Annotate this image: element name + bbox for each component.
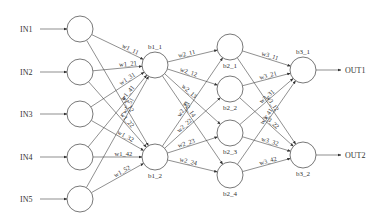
neuron-label: b3_1 xyxy=(296,48,311,56)
edge-l1 xyxy=(89,82,147,148)
input-label: IN4 xyxy=(20,153,32,162)
weight-label: w1_11 xyxy=(121,42,140,56)
edge-l1 xyxy=(88,75,147,147)
neuron-node xyxy=(142,52,168,78)
neuron-node xyxy=(217,162,243,188)
input-label: IN5 xyxy=(20,195,32,204)
neuron-node xyxy=(217,120,243,146)
neuron-label: b2_3 xyxy=(223,148,238,156)
neuron-label: b3_2 xyxy=(296,170,311,178)
input-node xyxy=(67,101,93,127)
neuron-node xyxy=(217,34,243,60)
neural-network-diagram: w1_11w1_12w1_21w1_22w1_31w1_32w1_41w1_42… xyxy=(0,0,384,218)
weight-label: w1_32 xyxy=(116,128,135,143)
neuron-label: b1_2 xyxy=(148,172,163,180)
weight-label: w1_52 xyxy=(112,164,131,179)
neuron-node xyxy=(142,144,168,170)
output-label: OUT2 xyxy=(345,151,365,160)
weight-label: w1_31 xyxy=(118,71,137,87)
weight-labels: w1_11w1_12w1_21w1_22w1_31w1_32w1_41w1_42… xyxy=(112,42,280,178)
output-label: OUT1 xyxy=(345,66,365,75)
input-label: IN2 xyxy=(20,68,32,77)
input-node xyxy=(67,59,93,85)
neuron-label: b2_2 xyxy=(223,104,238,112)
neuron-node xyxy=(290,142,316,168)
input-node xyxy=(67,144,93,170)
edge-l1 xyxy=(93,66,142,71)
weight-label: w1_42 xyxy=(115,150,133,157)
input-label: IN1 xyxy=(20,25,32,34)
neuron-label: b1_1 xyxy=(148,43,163,51)
edge-l1 xyxy=(91,72,144,107)
weight-label: w1_21 xyxy=(119,59,137,68)
input-node xyxy=(67,186,93,212)
input-label: IN3 xyxy=(20,110,32,119)
neuron-label: b2_1 xyxy=(223,62,238,70)
neuron-node xyxy=(290,57,316,83)
neuron-label: b2_4 xyxy=(223,190,238,198)
edge-l1 xyxy=(91,163,143,192)
input-node xyxy=(67,16,93,42)
neuron-node xyxy=(217,76,243,102)
